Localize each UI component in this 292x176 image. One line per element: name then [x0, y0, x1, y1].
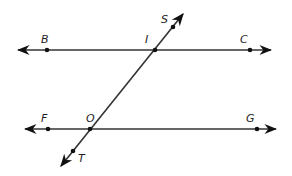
label-F: F — [41, 112, 48, 125]
point-I — [153, 48, 158, 53]
transversal-ST — [61, 14, 183, 166]
label-I: I — [145, 33, 148, 46]
point-C — [248, 48, 253, 53]
label-C: C — [240, 33, 248, 46]
point-S — [171, 25, 176, 30]
label-O: O — [86, 112, 95, 125]
point-O — [88, 127, 93, 132]
point-T — [71, 149, 76, 154]
label-S: S — [161, 13, 168, 26]
label-G: G — [246, 112, 255, 125]
geometry-diagram: BICSFOGT — [0, 0, 292, 176]
point-G — [255, 127, 260, 132]
label-T: T — [78, 152, 86, 165]
label-B: B — [41, 33, 49, 46]
point-B — [45, 48, 50, 53]
point-F — [46, 127, 51, 132]
